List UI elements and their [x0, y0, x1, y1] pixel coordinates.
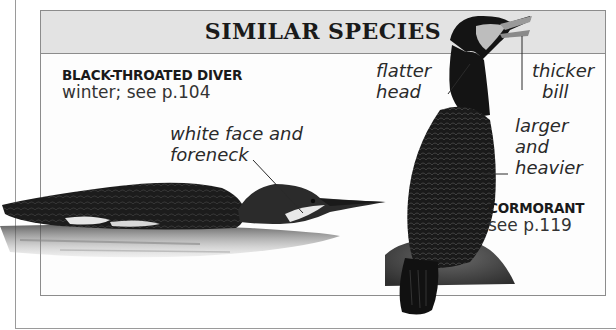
diver-reference: winter; see p.104: [62, 82, 210, 102]
diver-name: BLACK-THROATED DIVER: [62, 67, 242, 83]
cormorant-annotation-flatter-head: flatter head: [376, 60, 431, 102]
black-throated-diver-illustration: [2, 160, 386, 230]
cormorant-annotation-thicker-bill: thicker bill: [532, 60, 594, 102]
cormorant-reference: see p.119: [488, 215, 572, 235]
cormorant-name: CORMORANT: [488, 200, 584, 216]
cormorant-annotation-larger-heavier: larger and heavier: [515, 115, 583, 178]
diver-annotation-white-face: white face and foreneck: [170, 123, 303, 165]
